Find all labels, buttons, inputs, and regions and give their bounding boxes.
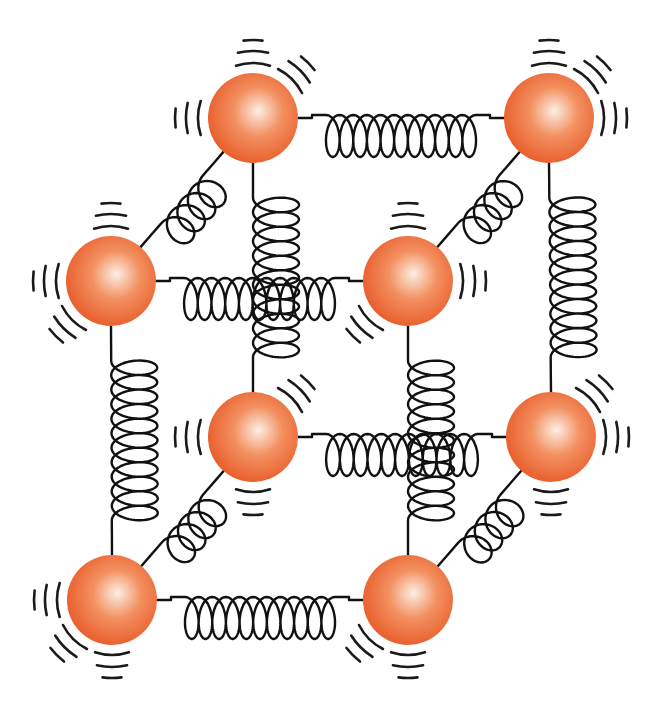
vibration-mark-icon [51,648,65,662]
vibration-mark-icon [175,428,176,447]
vibration-mark-icon [393,665,423,667]
crystal-lattice-diagram: Ball-and-spring model of a crystal latti… [0,0,661,716]
vibration-mark-icon [485,272,486,291]
atoms-layer [66,73,596,645]
vibration-mark-icon [103,677,122,678]
vibration-mark-icon [534,489,568,492]
vibration-mark-icon [186,422,188,452]
vibration-mark-icon [97,665,127,667]
vibration-mark-icon [616,422,618,452]
spring-bottom-front-horizontal [157,597,363,639]
spring-top-right-diagonal [437,152,522,247]
vibration-mark-icon [56,264,59,298]
vibration-mark-icon [460,264,463,298]
vibration-mark-icon [186,103,188,133]
atom-front-top-right [363,236,453,326]
vibration-mark-icon [599,376,613,390]
spring-bottom-back-horizontal [298,434,506,476]
vibration-mark-icon [532,63,566,66]
vibration-mark-icon [540,40,559,41]
vibration-mark-icon [244,514,263,515]
vibration-mark-icon [534,51,564,53]
spring-left-front-vertical [111,326,158,555]
vibration-mark-icon [542,514,561,515]
vibration-mark-icon [244,40,263,41]
atom-back-top-right [504,73,594,163]
vibration-mark-icon [33,272,34,291]
spring-right-back-vertical [549,163,597,392]
vibration-mark-icon [238,502,268,504]
vibration-mark-icon [198,101,201,135]
vibration-mark-icon [603,420,606,454]
vibration-mark-icon [95,652,129,655]
vibration-mark-icon [301,376,315,390]
vibration-mark-icon [45,585,47,615]
vibration-mark-icon [57,583,60,617]
atom-front-bottom-right [363,555,453,645]
spring-top-left-diagonal [141,152,226,247]
vibration-mark-icon [601,101,604,135]
atom-back-bottom-left [208,392,298,482]
vibration-mark-icon [614,103,616,133]
lattice-canvas [0,0,661,716]
vibration-mark-icon [34,591,35,610]
vibration-mark-icon [175,109,176,128]
vibration-mark-icon [347,329,361,343]
spring-top-front-horizontal [156,278,363,320]
atom-back-top-left [208,73,298,163]
vibration-mark-icon [50,329,64,343]
vibration-mark-icon [347,648,361,662]
vibration-mark-icon [391,652,425,655]
vibration-mark-icon [236,63,270,66]
vibration-mark-icon [44,266,46,296]
vibration-mark-icon [473,266,475,296]
vibration-mark-icon [597,57,611,71]
atom-back-bottom-right [506,392,596,482]
vibration-mark-icon [94,226,128,229]
vibration-mark-icon [626,109,627,128]
atom-front-top-left [66,236,156,326]
springs-layer [111,115,597,639]
vibration-mark-icon [536,502,566,504]
vibration-mark-icon [399,677,418,678]
vibration-mark-icon [102,203,121,204]
spring-top-back-horizontal [298,115,504,157]
vibration-mark-icon [198,420,201,454]
vibration-mark-icon [399,203,418,204]
vibration-mark-icon [393,214,423,216]
vibration-mark-icon [301,57,315,71]
vibration-mark-icon [238,51,268,53]
vibration-mark-icon [391,226,425,229]
atom-front-bottom-left [67,555,157,645]
vibration-mark-icon [628,428,629,447]
vibration-mark-icon [236,489,270,492]
vibration-mark-icon [96,214,126,216]
